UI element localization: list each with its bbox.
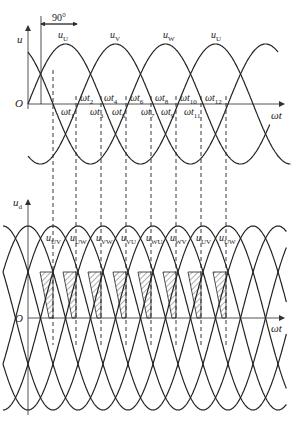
hatched-region [163, 272, 176, 318]
line-voltage-label: uVU [121, 233, 136, 246]
upper-origin-label: O [15, 98, 23, 109]
line-voltage-label: uWU [146, 233, 163, 246]
hatched-region [88, 272, 101, 318]
hatched-region [188, 272, 201, 318]
instant-label: ωt4 [104, 93, 117, 106]
instant-label: ωt9 [161, 107, 174, 120]
line-voltage-label: uUV [46, 233, 61, 246]
upper-y-axis-label: u [17, 34, 23, 45]
hatched-region [63, 272, 76, 318]
instant-label: ωt3 [90, 107, 103, 120]
phase-label: uU [211, 30, 221, 43]
bracket-90-label: 90° [52, 13, 66, 23]
hatched-region [138, 272, 151, 318]
instant-label: ωt7 [141, 107, 154, 120]
upper-x-axis-label: ωt [271, 110, 282, 121]
instant-label: ωt5 [112, 107, 125, 120]
phase-label: uU [58, 30, 68, 43]
line-voltage-label: uUW [219, 233, 236, 246]
line-voltage-label: uUW [70, 233, 87, 246]
instant-label: ωt8 [155, 93, 168, 106]
hatched-region [213, 272, 226, 318]
instant-label: ωt11 [184, 107, 201, 120]
lower-y-axis-label: ud [13, 197, 22, 211]
instant-label: ωt10 [180, 93, 197, 106]
hatched-region [113, 272, 126, 318]
line-voltage-label: uUV [196, 233, 211, 246]
phase-label: uW [163, 30, 175, 43]
lower-x-axis-label: ωt [271, 323, 282, 334]
lower-origin-label: O [15, 313, 23, 324]
instant-label: ωt12 [205, 93, 222, 106]
phase-label: uV [110, 30, 120, 43]
instant-label: ωt6 [130, 93, 143, 106]
instant-label: ωt1 [61, 107, 74, 120]
instant-label: ωt2 [80, 93, 93, 106]
waveform-diagram [0, 0, 297, 429]
line-voltage-label: uWV [170, 233, 187, 246]
line-voltage-label: uVW [96, 233, 113, 246]
